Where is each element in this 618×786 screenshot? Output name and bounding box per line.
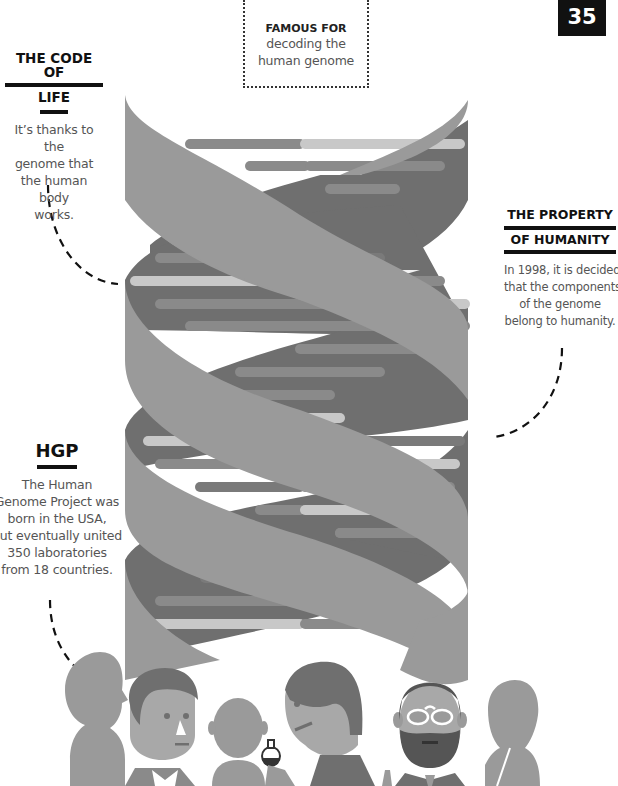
- property-text-1: In 1998, it is decided: [504, 262, 616, 279]
- property-rule1: [504, 226, 616, 230]
- famous-for-line1: decoding the: [245, 35, 367, 52]
- property-title-line2: OF HUMANITY: [504, 234, 616, 247]
- famous-for-label: FAMOUS FOR: [245, 22, 367, 35]
- hgp-title: HGP: [0, 442, 124, 460]
- code-of-life-section: THE CODE OF LIFE It’s thanks to the geno…: [5, 52, 103, 223]
- code-of-life-title-line1: THE CODE OF: [5, 52, 103, 79]
- code-of-life-rule1: [5, 83, 103, 87]
- code-of-life-title-line2: LIFE: [5, 91, 103, 105]
- hgp-text-1: The Human: [0, 476, 124, 493]
- code-of-life-text-4: works.: [5, 206, 103, 223]
- code-of-life-text-3: the human body: [5, 172, 103, 206]
- hgp-text-4: but eventually united: [0, 527, 124, 544]
- hgp-rule: [37, 465, 77, 469]
- code-of-life-text-2: genome that: [5, 155, 103, 172]
- property-section: THE PROPERTY OF HUMANITY In 1998, it is …: [504, 209, 616, 330]
- hgp-text-3: born in the USA,: [0, 510, 124, 527]
- property-text-3: of the genome: [504, 296, 616, 313]
- famous-for-box: FAMOUS FOR decoding the human genome: [243, 0, 369, 88]
- hgp-text-5: 350 laboratories: [0, 544, 124, 561]
- hgp-text-6: from 18 countries.: [0, 561, 124, 578]
- famous-for-line2: human genome: [245, 52, 367, 69]
- hgp-text-2: Genome Project was: [0, 493, 124, 510]
- property-title-line1: THE PROPERTY: [504, 209, 616, 222]
- code-of-life-text-1: It’s thanks to the: [5, 121, 103, 155]
- code-of-life-rule2: [40, 110, 68, 114]
- property-rule2: [504, 250, 616, 254]
- hgp-section: HGP The Human Genome Project was born in…: [0, 442, 124, 578]
- property-text-4: belong to humanity.: [504, 313, 616, 330]
- property-text-2: that the components: [504, 279, 616, 296]
